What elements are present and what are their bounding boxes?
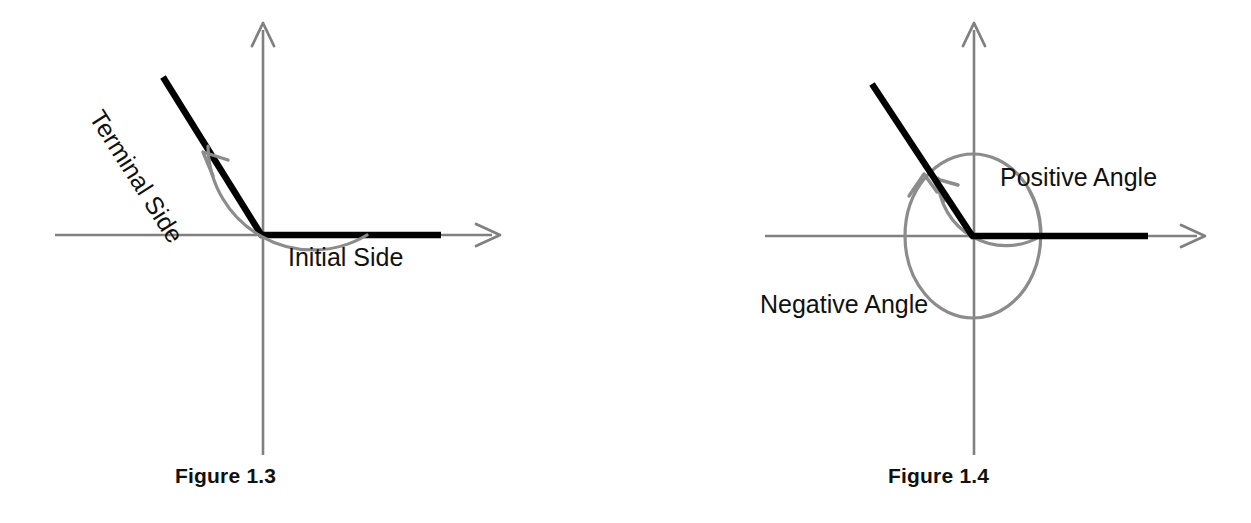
label-positive-angle: Positive Angle <box>1000 163 1157 192</box>
figure-1-3-caption: Figure 1.3 <box>175 464 276 488</box>
figure-1-3 <box>55 23 500 455</box>
figure-1-4-caption: Figure 1.4 <box>888 464 989 488</box>
label-negative-angle: Negative Angle <box>760 290 928 319</box>
label-initial-side: Initial Side <box>288 243 403 272</box>
figure-1-4 <box>765 23 1205 455</box>
figures-canvas <box>0 0 1251 523</box>
fig14-terminal-side-ray <box>872 84 973 237</box>
